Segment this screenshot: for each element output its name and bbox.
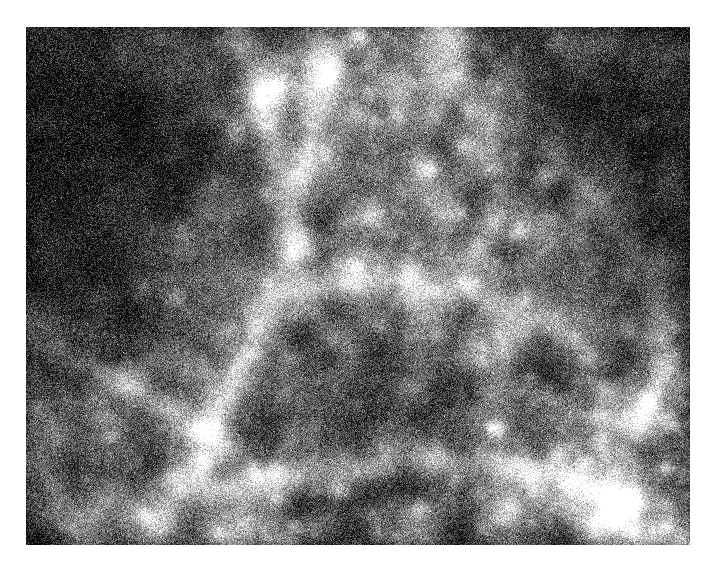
astronomy-field-figure xyxy=(26,27,690,545)
field-heatmap-canvas xyxy=(26,27,690,545)
page-root: Noisy greyscale intensity map of a cosmo… xyxy=(0,0,716,571)
